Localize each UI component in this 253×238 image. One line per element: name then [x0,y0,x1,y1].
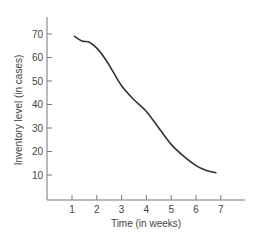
x-tick-label: 2 [94,204,100,215]
y-tick-label: 70 [32,29,44,40]
y-tick-label: 10 [32,170,44,181]
series-group [75,36,216,172]
x-tick-label: 5 [168,204,174,215]
y-axis-title: Inventory level (in cases) [13,55,24,166]
y-tick-label: 20 [32,146,44,157]
x-axis: 1234567 [47,195,245,215]
y-axis: 10203040506070 [32,17,52,200]
x-tick-label: 6 [193,204,199,215]
x-tick-label: 1 [69,204,75,215]
x-tick-label: 4 [144,204,150,215]
x-axis-title: Time (in weeks) [111,218,181,229]
y-tick-label: 60 [32,52,44,63]
x-tick-label: 7 [218,204,224,215]
y-tick-label: 50 [32,76,44,87]
y-tick-label: 40 [32,99,44,110]
line-chart: 10203040506070 1234567 Time (in weeks) I… [0,0,253,238]
inventory-line [75,36,216,172]
x-tick-label: 3 [119,204,125,215]
y-tick-label: 30 [32,123,44,134]
